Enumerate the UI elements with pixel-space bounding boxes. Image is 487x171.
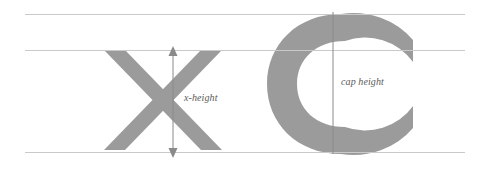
cap-height-label: cap height [341, 76, 384, 87]
typography-diagram: x-height cap height [0, 0, 487, 171]
guide-cap-height-line [25, 14, 465, 15]
guide-baseline [25, 152, 465, 153]
glyph-layer [0, 0, 487, 171]
guide-x-height-line [25, 50, 465, 51]
x-height-label: x-height [184, 92, 218, 103]
